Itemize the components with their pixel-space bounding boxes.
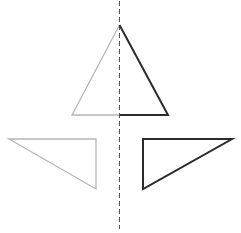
bottom-right-triangle <box>143 139 232 189</box>
symmetry-diagram <box>0 0 241 233</box>
bottom-left-triangle <box>9 139 96 189</box>
top-triangle-right-half <box>120 25 169 115</box>
top-triangle-left-half <box>72 25 120 115</box>
